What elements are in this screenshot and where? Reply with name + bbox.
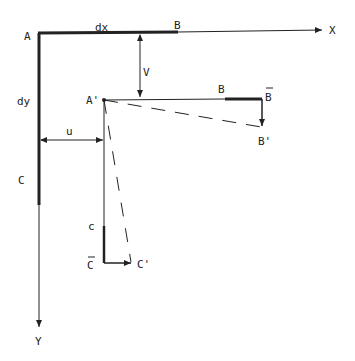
label-C: C (18, 174, 25, 187)
label-dy: dy (17, 95, 31, 108)
label-C-bar: C (87, 259, 94, 272)
label-A: A (24, 30, 31, 43)
label-B-mid: B (218, 83, 225, 96)
label-B-prime: B' (258, 135, 271, 148)
label-C-prime: C' (137, 258, 150, 271)
label-X: X (329, 24, 336, 37)
x-axis (178, 30, 322, 32)
label-u: u (66, 125, 73, 138)
edge-AB-deformed (104, 100, 261, 127)
label-B-bar: B (265, 91, 272, 104)
deformation-diagram: A dx B X V dy A' B B B' u C c C C' Y (0, 0, 355, 361)
label-Y: Y (35, 335, 42, 348)
label-A-prime: A' (86, 94, 99, 107)
label-dx: dx (95, 21, 109, 34)
edge-AB-translated (104, 99, 225, 100)
label-B-top: B (174, 19, 181, 32)
point-A-prime (102, 98, 106, 102)
label-c-small: c (88, 220, 95, 233)
label-V: V (143, 66, 150, 79)
edge-AC-deformed (104, 100, 131, 262)
